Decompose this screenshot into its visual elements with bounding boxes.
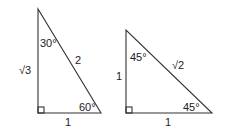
side-label-base: 1 bbox=[65, 116, 71, 128]
right-angle-marker bbox=[38, 107, 44, 113]
side-label-vertical: √3 bbox=[19, 64, 31, 76]
angle-label-bottom: 45° bbox=[183, 101, 200, 113]
angle-label-top: 30° bbox=[40, 37, 57, 49]
side-label-base: 1 bbox=[165, 116, 171, 128]
triangle-45-45-90: 45° 1 √2 45° 1 bbox=[116, 30, 212, 128]
triangle-30-60-90: 30° √3 2 60° 1 bbox=[19, 9, 101, 128]
right-angle-marker bbox=[126, 107, 132, 113]
triangle-outline bbox=[38, 9, 101, 113]
angle-label-top: 45° bbox=[130, 51, 147, 63]
side-label-vertical: 1 bbox=[116, 70, 122, 82]
side-label-hypotenuse: √2 bbox=[172, 59, 184, 71]
triangles-diagram: 30° √3 2 60° 1 45° 1 √2 45° 1 bbox=[0, 0, 226, 133]
side-label-hypotenuse: 2 bbox=[75, 54, 81, 66]
angle-label-bottom: 60° bbox=[79, 101, 96, 113]
